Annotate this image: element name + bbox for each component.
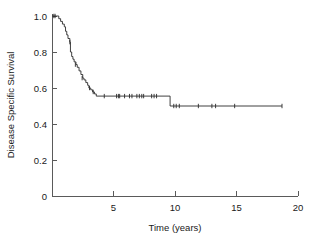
x-tick-label: 5 <box>111 202 116 213</box>
y-axis-ticks <box>52 16 57 196</box>
y-tick-label: 0.4 <box>34 119 47 130</box>
y-axis-tick-labels: 00.20.40.60.81.0 <box>34 11 47 202</box>
survival-chart-figure: 00.20.40.60.81.0 5101520 Time (years) Di… <box>0 0 318 239</box>
survival-curve-line <box>52 16 282 106</box>
x-axis-title: Time (years) <box>149 222 202 233</box>
y-tick-label: 0.6 <box>34 83 47 94</box>
y-tick-label: 0.2 <box>34 155 47 166</box>
x-axis-tick-labels: 5101520 <box>111 202 303 213</box>
chart-canvas: 00.20.40.60.81.0 5101520 Time (years) Di… <box>0 0 318 239</box>
x-axis-ticks <box>114 191 299 196</box>
x-tick-label: 20 <box>293 202 304 213</box>
y-axis-title: Disease Specific Survival <box>5 52 16 159</box>
y-tick-label: 1.0 <box>34 11 47 22</box>
x-tick-label: 15 <box>231 202 242 213</box>
y-tick-label: 0 <box>42 191 47 202</box>
x-tick-label: 10 <box>170 202 181 213</box>
censor-marks-group <box>54 14 282 108</box>
y-tick-label: 0.8 <box>34 47 47 58</box>
